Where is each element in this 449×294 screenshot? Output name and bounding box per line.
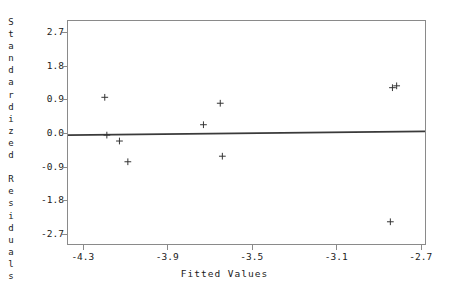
reference-line xyxy=(68,131,425,135)
x-tick-label: -2.7 xyxy=(409,251,432,262)
data-point-marker xyxy=(387,218,394,225)
data-point-marker xyxy=(389,84,396,91)
data-point-marker xyxy=(393,82,400,89)
data-point-marker xyxy=(101,94,108,101)
data-point-marker xyxy=(124,158,131,165)
data-point-marker xyxy=(103,132,110,139)
x-axis-title: Fitted Values xyxy=(0,268,449,279)
x-tick-mark xyxy=(421,245,422,250)
plot-canvas xyxy=(68,21,425,244)
x-tick-label: -3.1 xyxy=(325,251,348,262)
x-tick-label: -4.3 xyxy=(71,251,94,262)
x-tick-label: -3.5 xyxy=(240,251,263,262)
x-tick-mark xyxy=(83,245,84,250)
data-point-marker xyxy=(200,121,207,128)
x-tick-mark xyxy=(252,245,253,250)
x-tick-mark xyxy=(167,245,168,250)
data-point-marker xyxy=(217,100,224,107)
x-tick-label: -3.9 xyxy=(156,251,179,262)
x-tick-mark xyxy=(336,245,337,250)
plot-area xyxy=(67,20,426,245)
data-point-marker xyxy=(116,138,123,145)
chart-figure: StandardizedResiduals 2.71.80.90.0-0.9-1… xyxy=(0,0,449,294)
data-point-marker xyxy=(219,153,226,160)
